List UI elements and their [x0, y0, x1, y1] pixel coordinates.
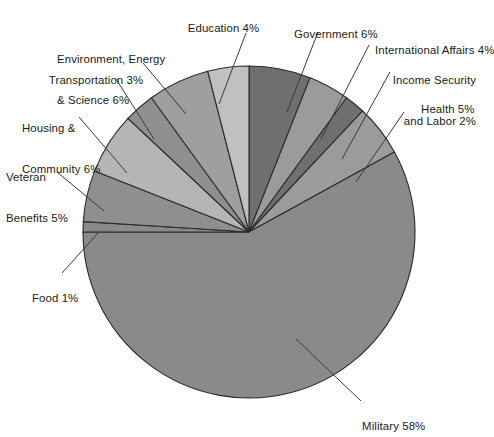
slice-label-food-text: Food 1%	[32, 292, 78, 304]
slice-label-military-text: Military 58%	[362, 420, 425, 432]
slice-label-education-text: Education 4%	[188, 22, 260, 34]
slice-label-housing-line1: Housing &	[22, 122, 142, 136]
slice-label-veteran-line2: Benefits 5%	[6, 212, 116, 226]
slice-label-transportation-text: Transportation 3%	[49, 74, 143, 86]
slice-label-veteran-line1: Veteran	[6, 171, 116, 185]
slice-label-health: Health 5%	[408, 89, 488, 130]
slice-label-food: Food 1%	[19, 278, 109, 319]
slice-label-veteran: Veteran Benefits 5%	[6, 144, 116, 252]
slice-label-income-line1: Income Security	[356, 74, 476, 88]
slice-label-health-text: Health 5%	[421, 103, 474, 115]
slice-label-military: Military 58%	[349, 406, 459, 437]
